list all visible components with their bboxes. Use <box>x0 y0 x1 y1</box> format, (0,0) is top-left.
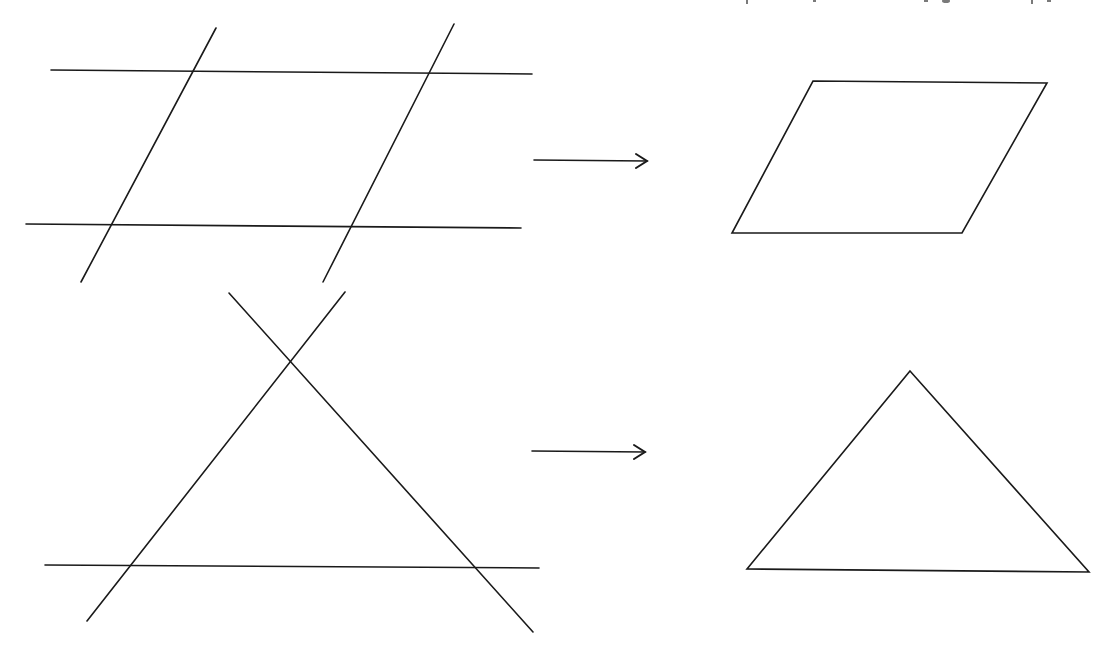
falling-line <box>229 293 533 632</box>
rising-line <box>87 292 345 621</box>
parallelogram-source-lines <box>26 24 532 282</box>
left-slanted-line <box>81 28 216 282</box>
diagram-canvas <box>0 0 1116 651</box>
horizontal-line <box>45 565 539 568</box>
parallelogram-shape <box>732 81 1047 233</box>
arrow-right-icon <box>532 445 645 459</box>
cropped-text-fragments <box>746 0 1051 4</box>
triangle-shape <box>747 371 1089 572</box>
bottom-horizontal-line <box>26 224 521 228</box>
triangle-source-lines <box>45 292 539 632</box>
top-horizontal-line <box>51 70 532 74</box>
arrow-right-icon <box>534 154 647 168</box>
right-slanted-line <box>323 24 454 282</box>
